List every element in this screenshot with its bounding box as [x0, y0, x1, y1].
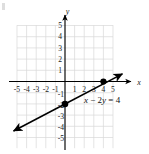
x-tick--4: -4 [23, 85, 30, 94]
x-tick--5: -5 [14, 85, 21, 94]
x-tick-2: 2 [82, 85, 86, 94]
y-tick-5: 5 [58, 21, 62, 30]
x-tick--2: -2 [43, 85, 50, 94]
x-tick-5: 5 [111, 85, 115, 94]
y-tick--3: -3 [58, 112, 65, 121]
x-tick-4: 4 [102, 85, 106, 94]
point-x-intercept [100, 78, 106, 84]
x-tick--3: -3 [33, 85, 40, 94]
equation-rhs: = 4 [106, 95, 121, 105]
equation-annotation: x − 2y = 4 [83, 95, 121, 105]
y-tick-4: 4 [58, 32, 62, 41]
y-tick-3: 3 [58, 44, 62, 53]
equation-middle: − 2 [88, 95, 102, 105]
y-tick--5: -5 [58, 134, 65, 143]
x-tick-1: 1 [73, 85, 77, 94]
point-y-intercept [62, 101, 69, 108]
graph-figure: x y -5 -4 -3 -2 -1 1 2 3 4 5 5 4 3 2 1 -… [0, 0, 149, 154]
y-tick-labels: 5 4 3 2 1 -1 -2 -3 -4 -5 [58, 21, 65, 143]
y-tick--1: -1 [58, 90, 65, 99]
coordinate-plane: x y -5 -4 -3 -2 -1 1 2 3 4 5 5 4 3 2 1 -… [0, 0, 149, 154]
x-axis-label: x [136, 78, 141, 87]
y-tick-2: 2 [58, 55, 62, 64]
y-axis-label: y [65, 7, 70, 16]
y-tick--4: -4 [58, 123, 65, 132]
y-tick-1: 1 [58, 66, 62, 75]
